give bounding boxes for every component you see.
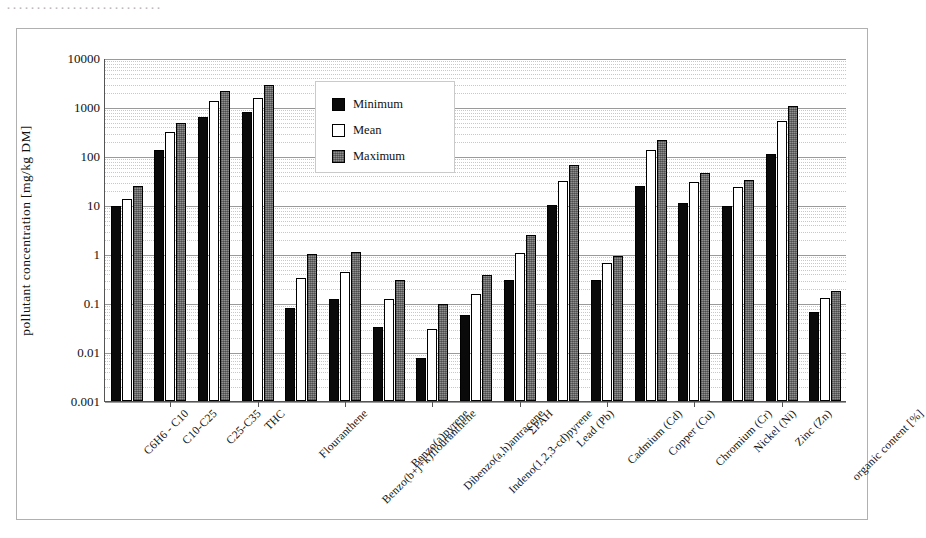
y-axis-tick-label: 1000 (74, 100, 100, 116)
y-axis-tick-labels: 1000010001001010.10.010.001 (37, 59, 100, 402)
bar-mean (777, 121, 787, 401)
y-axis-tick-label: 100 (81, 149, 101, 165)
bar-min (373, 327, 383, 401)
x-axis-tick-label: THC (262, 407, 287, 432)
bar-mean (602, 263, 612, 401)
bar-mean (733, 187, 743, 401)
bar-min (591, 280, 601, 401)
x-axis-tick-label: Indeno(1,2,3-cd)pyrene (506, 407, 594, 495)
chart-legend: Minimum Mean Maximum (315, 81, 455, 173)
black-square-icon (332, 98, 345, 111)
bar-max (788, 106, 798, 401)
legend-item-minimum: Minimum (332, 91, 454, 117)
bar-max (438, 304, 448, 401)
white-square-icon (332, 124, 345, 137)
y-axis-tick-label: 10000 (68, 51, 101, 67)
bar-group (803, 59, 847, 401)
bar-mean (820, 298, 830, 401)
bar-min (416, 358, 426, 401)
bar-min (766, 154, 776, 401)
legend-item-mean: Mean (332, 117, 454, 143)
bar-mean (558, 181, 568, 401)
plot-area (104, 59, 846, 402)
bar-max (482, 275, 492, 401)
x-axis-tick-label: Flouranthene (317, 407, 370, 460)
hatched-square-icon (332, 150, 345, 163)
legend-item-maximum: Maximum (332, 143, 454, 169)
bar-max (657, 140, 667, 401)
bar-mean (253, 98, 263, 401)
bar-max (700, 173, 710, 401)
bar-min (154, 150, 164, 401)
bar-group (629, 59, 673, 401)
x-axis-tick-labels: C6H6 - C10C10-C25C25-C35THCFlourantheneB… (104, 403, 864, 518)
bar-group (105, 59, 149, 401)
bar-max (133, 186, 143, 401)
bar-mean (296, 278, 306, 401)
page-top-text-fragment: ·························· (0, 0, 885, 22)
bar-min (285, 308, 295, 401)
bar-max (220, 91, 230, 401)
bar-group (498, 59, 542, 401)
bar-mean (646, 150, 656, 401)
y-axis-title: pollutant concentration [mg/kg DM] (15, 59, 37, 402)
bar-mean (209, 101, 219, 401)
bar-group (454, 59, 498, 401)
bar-group (585, 59, 629, 401)
bar-mean (471, 294, 481, 401)
bar-group (716, 59, 760, 401)
bar-max (264, 85, 274, 401)
bar-min (722, 206, 732, 401)
bar-min (504, 280, 514, 401)
x-axis-tick-label: C25-C35 (224, 407, 263, 446)
y-axis-tick-label: 0.1 (84, 296, 100, 312)
bar-max (569, 165, 579, 401)
bar-min (547, 205, 557, 401)
bar-min (678, 203, 688, 401)
bar-max (744, 180, 754, 401)
y-axis-tick-label: 0.01 (77, 345, 100, 361)
y-axis-tick-label: 0.001 (71, 394, 100, 410)
y-axis-tick-label: 10 (87, 198, 100, 214)
bar-group (672, 59, 716, 401)
legend-label-maximum: Maximum (353, 149, 405, 164)
figure-frame: pollutant concentration [mg/kg DM] 10000… (16, 28, 868, 520)
bar-group (149, 59, 193, 401)
bar-mean (427, 329, 437, 401)
bar-group (192, 59, 236, 401)
y-axis-tick-label: 1 (94, 247, 101, 263)
bar-max (831, 291, 841, 401)
bar-mean (340, 272, 350, 401)
bar-min (111, 206, 121, 401)
x-axis-tick-label: Zinc (Zn) (792, 407, 833, 448)
bar-max (613, 256, 623, 401)
bar-mean (515, 253, 525, 401)
legend-label-mean: Mean (353, 123, 381, 138)
bar-mean (165, 132, 175, 401)
bar-min (329, 299, 339, 401)
bar-min (635, 186, 645, 401)
x-axis-tick-label: Cadmium (Cd) (625, 407, 684, 466)
x-axis-tick-label: C6H6 - C10 (141, 407, 191, 457)
bar-max (395, 280, 405, 401)
bar-mean (689, 182, 699, 401)
bar-max (526, 235, 536, 401)
bar-min (242, 112, 252, 401)
x-axis-tick-label: Benzo(a)pyrene (408, 407, 470, 469)
bar-max (351, 252, 361, 401)
bar-max (176, 123, 186, 401)
bar-group (760, 59, 804, 401)
bar-min (460, 315, 470, 401)
bar-group (236, 59, 280, 401)
bar-group (541, 59, 585, 401)
bar-min (198, 117, 208, 401)
bar-mean (122, 199, 132, 401)
bar-min (809, 312, 819, 401)
bar-mean (384, 299, 394, 401)
x-axis-tick-label: organic content [%] (850, 407, 926, 483)
legend-label-minimum: Minimum (353, 97, 403, 112)
bar-max (307, 254, 317, 401)
